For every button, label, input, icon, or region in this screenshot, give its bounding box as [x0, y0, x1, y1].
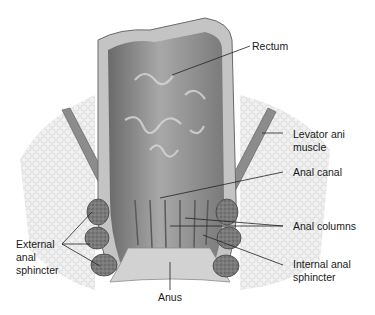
label-external-sphincter-line3: sphincter	[16, 264, 59, 276]
label-internal-sphincter-line1: Internal anal	[293, 258, 351, 270]
anatomy-diagram: Rectum Levator ani muscle Anal canal Ana…	[0, 0, 375, 315]
label-anal-canal: Anal canal	[293, 166, 342, 178]
label-levator-ani-line1: Levator ani	[293, 128, 345, 140]
label-levator-ani-line2: muscle	[293, 141, 326, 153]
external-sphincter-right	[213, 199, 241, 277]
label-external-sphincter-line1: External	[16, 238, 55, 250]
label-rectum: Rectum	[252, 40, 288, 52]
label-anal-columns: Anal columns	[293, 220, 356, 232]
label-external-sphincter-line2: anal	[16, 251, 36, 263]
label-internal-sphincter-line2: sphincter	[293, 271, 336, 283]
label-anus: Anus	[158, 291, 182, 303]
